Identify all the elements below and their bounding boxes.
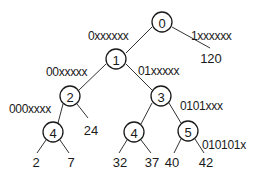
edge-label-0xxxxxx: 0xxxxxx — [88, 29, 129, 43]
edge-n4b-l37 — [141, 140, 151, 153]
edge-label-000xxxx: 000xxxx — [9, 102, 51, 116]
leaf-value-32: 32 — [113, 155, 127, 170]
node-label: 4 — [49, 126, 56, 141]
node-n5: 5 — [178, 121, 198, 141]
node-n4a: 4 — [43, 122, 63, 142]
node-n3: 3 — [151, 86, 171, 106]
leaf-value-24: 24 — [84, 123, 98, 138]
edge-n0-n1 — [126, 27, 152, 53]
leaf-value-2: 2 — [32, 155, 39, 170]
leaf-value-120: 120 — [200, 51, 222, 66]
node-label: 5 — [184, 125, 191, 140]
edge-label-0101xxx: 0101xxx — [180, 99, 223, 113]
node-n4b: 4 — [124, 122, 144, 142]
node-label: 0 — [158, 16, 165, 31]
edge-n5-l40 — [174, 139, 181, 153]
node-label: 2 — [66, 90, 73, 105]
edge-n2-n4a — [58, 104, 63, 123]
leaf-value-7: 7 — [67, 155, 74, 170]
node-n0: 0 — [152, 12, 172, 32]
leaf-value-40: 40 — [165, 155, 179, 170]
edge-n4a-l7 — [60, 140, 69, 153]
edge-n4b-l32 — [119, 140, 127, 153]
leaf-value-37: 37 — [145, 155, 159, 170]
node-n1: 1 — [106, 49, 126, 69]
node-label: 4 — [130, 126, 137, 141]
edge-label-00xxxxx: 00xxxxx — [46, 65, 88, 79]
leaf-value-42: 42 — [199, 155, 213, 170]
node-label: 3 — [157, 90, 164, 105]
edge-n2-l24 — [77, 104, 88, 118]
node-label: 1 — [112, 53, 119, 68]
edge-label-010101x: 010101x — [202, 138, 246, 152]
edge-label-01xxxxx: 01xxxxx — [138, 64, 180, 78]
edge-label-1xxxxxx: 1xxxxxx — [191, 29, 232, 43]
edge-n3-n4b — [141, 103, 152, 124]
trie-diagram: 0123445 120242732374042 0xxxxxx1xxxxxx00… — [0, 0, 259, 177]
edge-n4a-l2 — [37, 140, 46, 153]
node-n2: 2 — [60, 86, 80, 106]
